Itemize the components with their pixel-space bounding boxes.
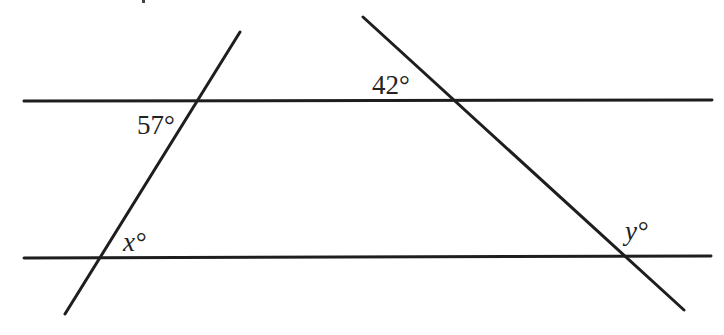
top-parallel-line: [24, 100, 712, 101]
right-transversal-line: [363, 17, 684, 310]
angle-label-42: 42°: [372, 70, 410, 100]
parallel-lines-diagram: 57° 42° x° y°: [0, 0, 724, 335]
left-transversal-line: [65, 32, 240, 314]
angle-label-x: x°: [122, 227, 146, 257]
angle-label-57: 57°: [137, 110, 175, 140]
angle-label-y: y°: [622, 216, 648, 246]
clipped-text-fragment: [142, 0, 145, 3]
